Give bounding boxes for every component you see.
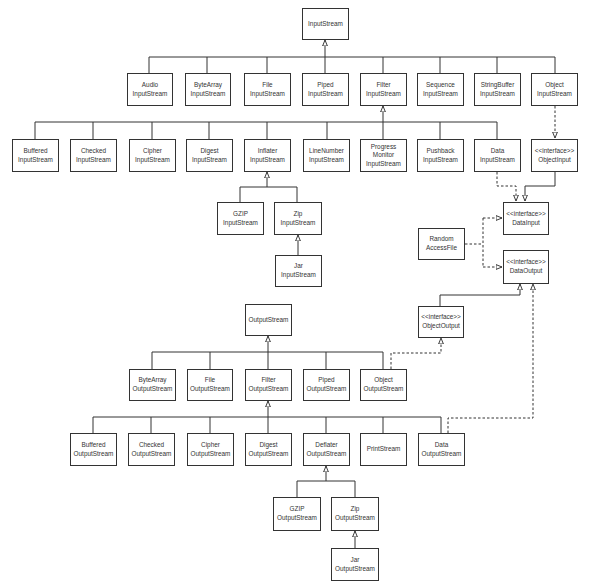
- class-label: InputStream: [423, 90, 458, 99]
- class-label: Zip: [294, 210, 303, 219]
- class-label: InputStream: [18, 156, 53, 165]
- class-cipher-inputstream: Cipher InputStream: [129, 139, 176, 172]
- class-label: ObjectInput: [538, 156, 571, 165]
- class-digest-inputstream: Digest InputStream: [186, 139, 233, 172]
- class-label: InputStream: [76, 156, 111, 165]
- class-label: ByteArray: [138, 376, 166, 385]
- class-label: GZIP: [233, 210, 248, 219]
- interface-dataoutput: <<interface>> DataOutput: [503, 250, 549, 284]
- class-outputstream: OutputStream: [245, 304, 292, 336]
- class-bytearray-inputstream: ByteArray InputStream: [185, 73, 231, 106]
- class-label: Buffered: [81, 441, 105, 450]
- class-label: PrintStream: [367, 445, 401, 454]
- class-label: InputStream: [423, 156, 458, 165]
- class-label: OutputStream: [307, 385, 347, 394]
- class-buffered-inputstream: Buffered InputStream: [12, 139, 59, 172]
- class-label: Object: [545, 81, 563, 90]
- class-label: OutputStream: [132, 450, 172, 459]
- class-stringbuffer-inputstream: StringBuffer InputStream: [474, 73, 521, 106]
- class-label: Monitor: [373, 151, 394, 160]
- class-label: Piped: [317, 81, 333, 90]
- class-checked-outputstream: Checked OutputStream: [128, 433, 175, 466]
- class-label: DataInput: [512, 219, 540, 228]
- class-gzip-outputstream: GZIP OutputStream: [273, 497, 321, 531]
- class-progressmonitor-inputstream: Progress Monitor InputStream: [360, 139, 407, 172]
- class-label: Pushback: [426, 147, 454, 156]
- class-checked-inputstream: Checked InputStream: [70, 139, 117, 172]
- class-label: Checked: [81, 147, 106, 156]
- class-filter-outputstream: Filter OutputStream: [245, 369, 292, 401]
- class-label: Jar: [294, 262, 303, 271]
- class-label: Digest: [200, 147, 218, 156]
- class-jar-outputstream: Jar OutputStream: [331, 548, 379, 581]
- class-label: Piped: [318, 376, 334, 385]
- class-object-inputstream: Object InputStream: [531, 73, 578, 106]
- class-label: InputStream: [281, 271, 316, 280]
- class-label: OutputStream: [191, 450, 231, 459]
- class-label: Checked: [139, 441, 164, 450]
- class-label: Cipher: [143, 147, 162, 156]
- class-label: OutputStream: [190, 385, 230, 394]
- class-label: InputStream: [281, 219, 316, 228]
- interface-datainput: <<interface>> DataInput: [503, 202, 549, 235]
- class-inputstream: InputStream: [302, 8, 349, 40]
- interface-objectinput: <<interface>> ObjectInput: [531, 139, 578, 172]
- class-label: InputStream: [191, 90, 226, 99]
- class-zip-outputstream: Zip OutputStream: [331, 497, 379, 531]
- class-label: InputStream: [366, 160, 401, 169]
- class-sequence-inputstream: Sequence InputStream: [417, 73, 464, 106]
- class-inflater-inputstream: Inflater InputStream: [244, 139, 291, 172]
- class-zip-inputstream: Zip InputStream: [274, 202, 322, 235]
- class-label: OutputStream: [277, 514, 317, 523]
- class-label: Cipher: [201, 441, 220, 450]
- class-label: StringBuffer: [481, 81, 515, 90]
- class-label: Inflater: [258, 147, 278, 156]
- class-file-inputstream: File InputStream: [244, 73, 291, 106]
- class-piped-outputstream: Piped OutputStream: [303, 369, 350, 401]
- class-label: LineNumber: [309, 147, 344, 156]
- class-label: AccessFile: [426, 244, 457, 253]
- class-label: InputStream: [309, 156, 344, 165]
- class-object-outputstream: Object OutputStream: [360, 369, 407, 401]
- class-label: Buffered: [23, 147, 47, 156]
- class-hierarchy-diagram: InputStream Audio InputStream ByteArray …: [0, 0, 593, 588]
- class-label: ByteArray: [194, 81, 222, 90]
- class-randomaccessfile: Random AccessFile: [418, 228, 465, 260]
- class-piped-inputstream: Piped InputStream: [302, 73, 349, 106]
- class-label: Progress: [371, 143, 397, 152]
- class-label: GZIP: [290, 505, 305, 514]
- class-label: ObjectOutput: [422, 322, 460, 331]
- class-label: File: [205, 376, 215, 385]
- class-bytearray-outputstream: ByteArray OutputStream: [129, 369, 176, 401]
- class-data-outputstream: Data OutputStream: [418, 433, 465, 466]
- class-label: InputStream: [133, 90, 168, 99]
- class-label: Filter: [261, 376, 275, 385]
- class-label: Data: [491, 147, 505, 156]
- class-label: File: [262, 81, 272, 90]
- class-label: OutputStream: [364, 385, 404, 394]
- class-label: InputStream: [223, 219, 258, 228]
- class-label: OutputStream: [74, 450, 114, 459]
- class-label: Digest: [259, 441, 277, 450]
- class-label: InputStream: [308, 20, 343, 29]
- class-gzip-inputstream: GZIP InputStream: [217, 202, 264, 235]
- class-digest-outputstream: Digest OutputStream: [245, 433, 292, 466]
- class-file-outputstream: File OutputStream: [187, 369, 233, 401]
- class-printstream: PrintStream: [360, 433, 407, 466]
- class-label: Random: [429, 235, 453, 244]
- class-label: DataOutput: [510, 267, 543, 276]
- class-data-inputstream: Data InputStream: [474, 139, 521, 172]
- class-label: Deflater: [315, 441, 337, 450]
- class-label: OutputStream: [422, 450, 462, 459]
- class-label: InputStream: [308, 90, 343, 99]
- class-label: InputStream: [480, 156, 515, 165]
- class-audio-inputstream: Audio InputStream: [127, 73, 173, 106]
- stereotype-label: <<interface>>: [421, 313, 460, 322]
- class-label: InputStream: [537, 90, 572, 99]
- class-label: OutputStream: [307, 450, 347, 459]
- class-label: Data: [435, 441, 449, 450]
- stereotype-label: <<interface>>: [506, 258, 545, 267]
- class-label: OutputStream: [249, 316, 289, 325]
- class-label: Filter: [376, 81, 390, 90]
- class-label: InputStream: [366, 90, 401, 99]
